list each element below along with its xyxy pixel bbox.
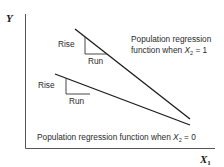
run-label-x2-1: Run bbox=[88, 56, 104, 66]
label-x2-1-line1: Population regression bbox=[131, 34, 212, 44]
run-label-x2-0: Run bbox=[69, 96, 85, 106]
rise-label-x2-0: Rise bbox=[38, 80, 55, 90]
y-axis-label: Y bbox=[6, 12, 14, 24]
regression-diagram: Y X1 Rise Run Population regression func… bbox=[0, 0, 224, 167]
x-axis-label: X1 bbox=[199, 153, 211, 167]
diagram-canvas: Y X1 Rise Run Population regression func… bbox=[0, 0, 224, 167]
label-x2-1-line2: function when X2 = 1 bbox=[131, 45, 208, 56]
label-x2-0: Population regression function when X2 =… bbox=[37, 132, 196, 143]
rise-label-x2-1: Rise bbox=[58, 39, 75, 49]
